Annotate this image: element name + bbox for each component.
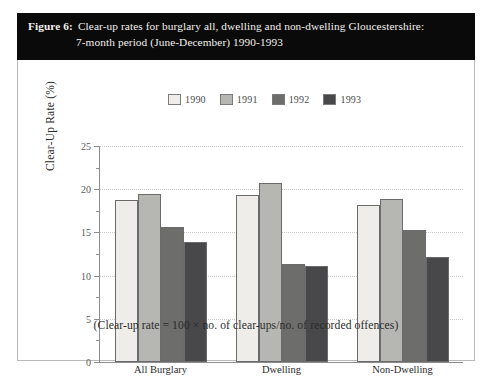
y-axis-minor-tick: [96, 211, 100, 212]
y-axis-tick-label: 10: [81, 270, 91, 281]
y-axis-tick-label: 25: [81, 141, 91, 152]
chart-area: Clear-Up Rate (%) 1990199119921993 05101…: [18, 61, 474, 360]
legend-swatch-icon-1992: [272, 94, 285, 105]
legend-item-1993[interactable]: 1993: [323, 94, 361, 105]
figure-title-line-1: Clear-up rates for burglary all, dwellin…: [78, 20, 424, 32]
legend-item-1992[interactable]: 1992: [272, 94, 310, 105]
y-axis-minor-tick: [96, 297, 100, 298]
bar-1990-all-burglary[interactable]: [115, 200, 138, 362]
bar-1992-dwelling[interactable]: [282, 264, 305, 362]
caption-line-1: Figure 6:Clear-up rates for burglary all…: [28, 18, 465, 34]
y-axis-tick-label: 0: [86, 357, 91, 368]
legend-item-1990[interactable]: 1990: [168, 94, 206, 105]
figure-number-label: Figure 6:: [28, 20, 73, 32]
figure-caption-bar: Figure 6:Clear-up rates for burglary all…: [17, 13, 475, 60]
y-axis-tick-label: 20: [81, 184, 91, 195]
chart-footnote: (Clear-up rate = 100 × no. of clear-ups/…: [18, 319, 474, 332]
y-axis-tick: [94, 276, 100, 277]
bar-1991-dwelling[interactable]: [259, 183, 282, 362]
y-axis-minor-tick: [96, 168, 100, 169]
legend-swatch-icon-1991: [220, 94, 233, 105]
legend-label-1992: 1992: [289, 94, 310, 105]
legend-label-1993: 1993: [340, 94, 361, 105]
bar-1993-dwelling[interactable]: [305, 266, 328, 362]
y-axis-minor-tick: [96, 340, 100, 341]
legend-item-1991[interactable]: 1991: [220, 94, 258, 105]
x-axis-category-label: All Burglary: [100, 364, 221, 375]
legend-label-1990: 1990: [185, 94, 206, 105]
y-axis-minor-tick: [96, 254, 100, 255]
bar-1991-non-dwelling[interactable]: [380, 199, 403, 362]
bar-1993-non-dwelling[interactable]: [426, 257, 449, 362]
y-axis-tick: [94, 146, 100, 147]
legend-swatch-icon-1990: [168, 94, 181, 105]
bar-1991-all-burglary[interactable]: [138, 194, 161, 362]
bar-1990-non-dwelling[interactable]: [357, 205, 380, 362]
y-axis-label: Clear-Up Rate (%): [44, 56, 56, 196]
legend-label-1991: 1991: [237, 94, 258, 105]
chart-legend: 1990199119921993: [168, 94, 368, 105]
y-axis-tick: [94, 189, 100, 190]
bar-1990-dwelling[interactable]: [236, 195, 259, 362]
figure-title-line-2: 7-month period (June-December) 1990-1993: [76, 34, 465, 50]
figure-page: Figure 6:Clear-up rates for burglary all…: [0, 0, 492, 377]
y-axis-tick-label: 15: [81, 227, 91, 238]
x-axis-category-label: Non-Dwelling: [342, 364, 463, 375]
bar-1992-non-dwelling[interactable]: [403, 230, 426, 362]
x-axis-category-label: Dwelling: [221, 364, 342, 375]
y-axis-tick: [94, 362, 100, 363]
bar-1992-all-burglary[interactable]: [161, 227, 184, 362]
y-axis-tick: [94, 232, 100, 233]
bar-1993-all-burglary[interactable]: [184, 242, 207, 362]
legend-swatch-icon-1993: [323, 94, 336, 105]
